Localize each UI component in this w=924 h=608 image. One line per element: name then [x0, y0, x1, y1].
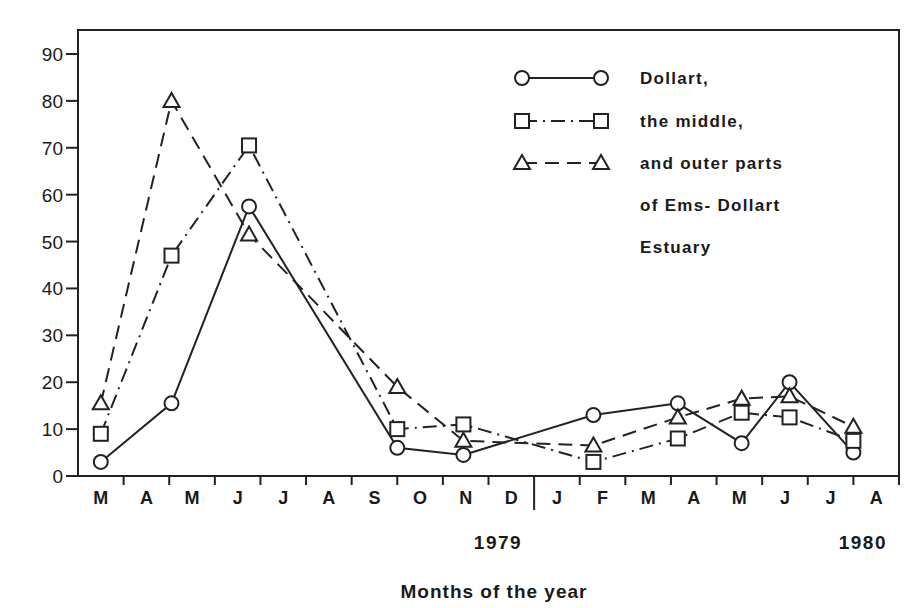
- plot-frame: [78, 30, 899, 476]
- square-marker-icon: [594, 114, 608, 128]
- x-axis: MAMJJASONDJFMAMJJA19791980: [78, 476, 899, 553]
- y-tick-label: 20: [42, 372, 63, 393]
- circle-marker-icon: [165, 396, 179, 410]
- triangle-marker-icon: [164, 93, 180, 107]
- triangle-marker-icon: [93, 395, 109, 409]
- legend-label: the middle,: [640, 112, 744, 131]
- legend-label: Dollart,: [640, 69, 709, 88]
- square-marker-icon: [846, 434, 860, 448]
- y-tick-label: 90: [42, 44, 63, 65]
- circle-marker-icon: [735, 436, 749, 450]
- year-label: 1980: [839, 532, 887, 553]
- circle-marker-icon: [586, 408, 600, 422]
- triangle-marker-icon: [670, 409, 686, 423]
- square-marker-icon: [735, 406, 749, 420]
- month-label: M: [641, 488, 656, 508]
- month-label: A: [322, 488, 335, 508]
- plot-border: [78, 30, 899, 476]
- circle-marker-icon: [594, 71, 608, 85]
- triangle-marker-icon: [455, 433, 471, 447]
- month-label: D: [505, 488, 518, 508]
- month-label: M: [93, 488, 108, 508]
- series-circle: [94, 199, 861, 469]
- line-chart: 0102030405060708090 MAMJJASONDJFMAMJJA19…: [0, 0, 924, 608]
- y-tick-label: 50: [42, 232, 63, 253]
- square-marker-icon: [515, 114, 529, 128]
- month-label: M: [185, 488, 200, 508]
- square-marker-icon: [456, 417, 470, 431]
- month-label: M: [732, 488, 747, 508]
- legend: Dollart,the middle,and outer partsof Ems…: [514, 69, 783, 257]
- month-label: J: [552, 488, 562, 508]
- month-label: A: [870, 488, 883, 508]
- month-label: F: [597, 488, 608, 508]
- circle-marker-icon: [242, 199, 256, 213]
- month-label: O: [413, 488, 427, 508]
- circle-marker-icon: [94, 455, 108, 469]
- triangle-marker-icon: [241, 227, 257, 241]
- square-marker-icon: [783, 410, 797, 424]
- year-label: 1979: [474, 532, 522, 553]
- month-label: A: [687, 488, 700, 508]
- circle-marker-icon: [456, 448, 470, 462]
- y-tick-label: 60: [42, 185, 63, 206]
- circle-marker-icon: [515, 71, 529, 85]
- month-label: N: [459, 488, 472, 508]
- y-tick-label: 40: [42, 278, 63, 299]
- legend-label: and outer parts: [640, 154, 783, 173]
- y-tick-label: 0: [52, 466, 63, 487]
- legend-label: Estuary: [640, 238, 711, 257]
- triangle-marker-icon: [845, 419, 861, 433]
- y-tick-label: 10: [42, 419, 63, 440]
- x-axis-title: Months of the year: [401, 581, 588, 602]
- square-marker-icon: [671, 431, 685, 445]
- month-label: J: [826, 488, 836, 508]
- square-marker-icon: [94, 427, 108, 441]
- series-triangle: [93, 93, 862, 452]
- series-square: [94, 138, 861, 469]
- month-label: S: [368, 488, 380, 508]
- legend-label: of Ems- Dollart: [640, 196, 780, 215]
- y-tick-label: 80: [42, 91, 63, 112]
- series-line: [101, 206, 854, 462]
- square-marker-icon: [390, 422, 404, 436]
- series-layer: [93, 93, 862, 469]
- y-axis: 0102030405060708090: [42, 44, 78, 487]
- month-label: A: [140, 488, 153, 508]
- triangle-marker-icon: [734, 391, 750, 405]
- square-marker-icon: [242, 138, 256, 152]
- square-marker-icon: [586, 455, 600, 469]
- month-label: J: [780, 488, 790, 508]
- month-label: J: [278, 488, 288, 508]
- square-marker-icon: [165, 249, 179, 263]
- y-tick-label: 30: [42, 325, 63, 346]
- month-label: J: [233, 488, 243, 508]
- y-tick-label: 70: [42, 138, 63, 159]
- circle-marker-icon: [390, 441, 404, 455]
- chart-canvas: 0102030405060708090 MAMJJASONDJFMAMJJA19…: [0, 0, 924, 608]
